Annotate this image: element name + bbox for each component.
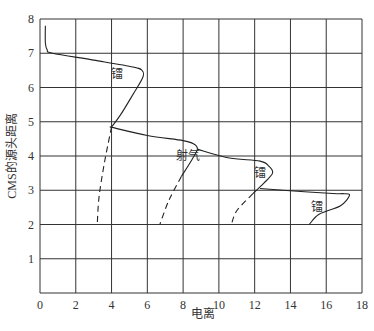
y-tick-label: 2 [28, 218, 34, 232]
curve-annotation: 镭 [311, 199, 323, 214]
x-tick-label: 14 [284, 298, 296, 312]
x-tick-label: 8 [180, 298, 186, 312]
x-tick-label: 12 [249, 298, 261, 312]
curve-solid [260, 189, 350, 225]
curve-dashed [231, 194, 252, 225]
y-tick-label: 5 [28, 115, 34, 129]
y-tick-label: 6 [28, 81, 34, 95]
curve-annotation: 射气 [176, 148, 200, 163]
y-tick-labels: 12345678 [28, 12, 34, 266]
x-tick-label: 16 [320, 298, 332, 312]
x-tick-label: 4 [109, 298, 115, 312]
y-tick-label: 4 [28, 149, 34, 163]
curve-dashed [97, 127, 111, 225]
x-tick-label: 18 [356, 298, 368, 312]
data-curves [45, 26, 349, 225]
x-tick-label: 0 [37, 298, 43, 312]
curve-solid [45, 26, 143, 127]
x-axis-label: 电离 [191, 306, 215, 321]
annotations: 镭射气镭镭 [111, 66, 323, 215]
y-tick-label: 7 [28, 46, 34, 60]
curve-annotation: 镭 [254, 165, 266, 180]
x-tick-label: 2 [73, 298, 79, 312]
grid-lines [40, 19, 362, 293]
y-axis-label: CMS的源头距离 [4, 113, 19, 198]
chart: 024681012141618 12345678 镭射气镭镭 电离 CMS的源头… [0, 0, 374, 331]
y-tick-label: 3 [28, 183, 34, 197]
y-tick-label: 1 [28, 252, 34, 266]
x-tick-label: 6 [144, 298, 150, 312]
curve-dashed [160, 177, 181, 225]
curve-annotation: 镭 [111, 66, 123, 81]
y-tick-label: 8 [28, 12, 34, 26]
